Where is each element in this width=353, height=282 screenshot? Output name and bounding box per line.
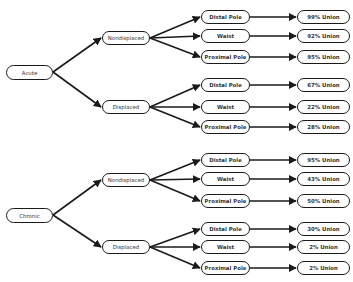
- outcome-node-acute-nondisplaced-proximal: 95% Union: [297, 50, 350, 64]
- location-node-chronic-nondisplaced-proximal: Proximal Pole: [201, 194, 250, 208]
- branch-node-chronic-nondisplaced: Nondisplaced: [102, 173, 150, 187]
- outcome-node-acute-displaced-distal: 67% Union: [297, 78, 350, 92]
- location-node-acute-displaced-proximal: Proximal Pole: [201, 120, 250, 134]
- location-node-acute-nondisplaced-waist: Waist: [201, 29, 250, 43]
- location-node-chronic-displaced-waist: Waist: [201, 240, 250, 254]
- root-node-chronic: Chronic: [6, 208, 53, 223]
- outcome-node-chronic-nondisplaced-proximal: 50% Union: [297, 194, 350, 208]
- location-node-acute-nondisplaced-proximal: Proximal Pole: [201, 50, 250, 64]
- location-node-chronic-nondisplaced-distal: Distal Pole: [201, 153, 250, 167]
- location-node-acute-nondisplaced-distal: Distal Pole: [201, 10, 250, 24]
- location-node-chronic-displaced-distal: Distal Pole: [201, 222, 250, 236]
- outcome-node-acute-displaced-proximal: 28% Union: [297, 120, 350, 134]
- outcome-node-chronic-nondisplaced-waist: 43% Union: [297, 172, 350, 186]
- outcome-node-acute-displaced-waist: 22% Union: [297, 100, 350, 114]
- outcome-node-chronic-displaced-proximal: 2% Union: [297, 261, 350, 275]
- branch-node-chronic-displaced: Displaced: [102, 240, 150, 254]
- root-node-acute: Acute: [6, 65, 53, 80]
- outcome-node-chronic-displaced-distal: 30% Union: [297, 222, 350, 236]
- outcome-node-chronic-displaced-waist: 2% Union: [297, 240, 350, 254]
- branch-node-acute-nondisplaced: Nondisplaced: [102, 31, 150, 45]
- location-node-chronic-displaced-proximal: Proximal Pole: [201, 261, 250, 275]
- location-node-chronic-nondisplaced-waist: Waist: [201, 172, 250, 186]
- outcome-node-acute-nondisplaced-waist: 92% Union: [297, 29, 350, 43]
- location-node-acute-displaced-distal: Distal Pole: [201, 78, 250, 92]
- outcome-node-acute-nondisplaced-distal: 99% Union: [297, 10, 350, 24]
- outcome-node-chronic-nondisplaced-distal: 95% Union: [297, 153, 350, 167]
- location-node-acute-displaced-waist: Waist: [201, 100, 250, 114]
- branch-node-acute-displaced: Displaced: [102, 100, 150, 114]
